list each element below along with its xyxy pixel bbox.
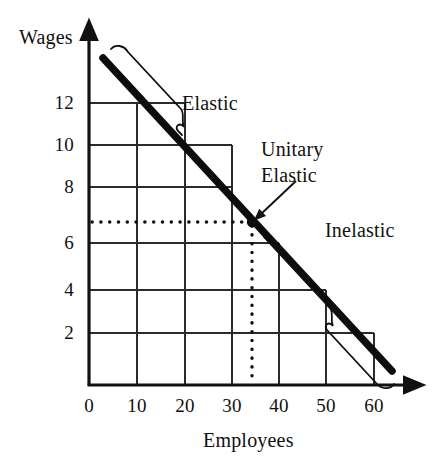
y-tick-label-6: 6 xyxy=(46,233,74,252)
y-tick-label-2: 2 xyxy=(46,323,74,342)
x-tick-label-30: 30 xyxy=(218,396,246,415)
y-tick-label-12: 12 xyxy=(46,93,74,112)
x-tick-label-50: 50 xyxy=(312,396,340,415)
y-tick-label-10: 10 xyxy=(46,135,74,154)
x-axis-title: Employees xyxy=(203,430,294,450)
y-tick-label-4: 4 xyxy=(46,280,74,299)
y-tick-label-8: 8 xyxy=(46,177,74,196)
annotation-elastic: Elastic xyxy=(182,93,238,113)
x-tick-label-40: 40 xyxy=(265,396,293,415)
guide-lines xyxy=(92,222,252,382)
annotation-inelastic: Inelastic xyxy=(325,220,395,240)
x-tick-label-20: 20 xyxy=(171,396,199,415)
annotation-unitary-elastic-line2: Elastic xyxy=(261,165,317,185)
chart-root: 12 10 8 6 4 2 0 10 20 30 40 50 60 Wages … xyxy=(0,0,440,474)
annotation-unitary-elastic-line1: Unitary xyxy=(261,139,324,159)
labor-demand-curve xyxy=(103,58,392,371)
x-tick-label-10: 10 xyxy=(123,396,151,415)
y-axis-title: Wages xyxy=(19,27,73,47)
elastic-brace xyxy=(111,46,184,135)
x-tick-label-60: 60 xyxy=(360,396,388,415)
unitary-elastic-point xyxy=(247,217,257,227)
x-tick-label-0: 0 xyxy=(75,396,103,415)
chart-gridlines xyxy=(89,103,374,385)
